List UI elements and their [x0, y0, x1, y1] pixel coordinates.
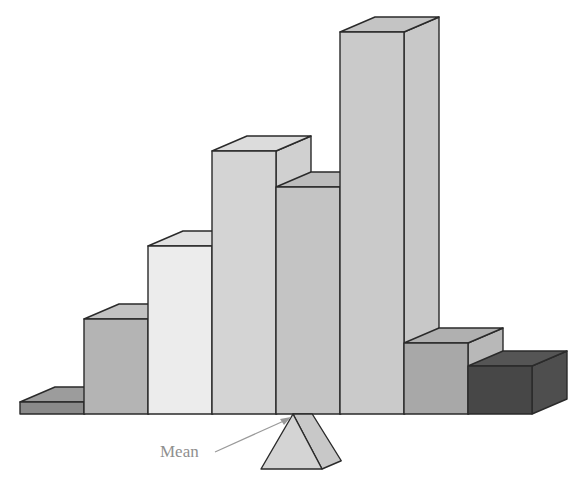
histogram-3d: Mean [0, 0, 578, 490]
bar-front-face [212, 151, 276, 414]
bar-front-face [276, 187, 340, 414]
bar-front-face [404, 343, 468, 414]
bar-front-face [468, 366, 532, 414]
histogram-diagram: Mean [0, 0, 578, 490]
fulcrum-triangle [261, 414, 341, 469]
bar-front-face [340, 32, 404, 414]
bar-front-face [148, 246, 212, 414]
bar-front-face [84, 319, 148, 414]
bars-group [20, 17, 567, 414]
mean-label: Mean [160, 442, 199, 461]
bar-front-face [20, 402, 84, 414]
